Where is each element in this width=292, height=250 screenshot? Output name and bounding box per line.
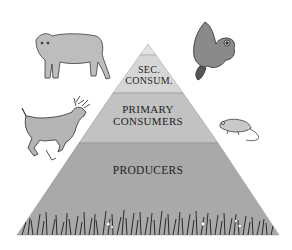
mouse-icon bbox=[220, 119, 259, 140]
label-producers-line1: PRODUCERS bbox=[90, 164, 206, 176]
label-secondary-line2: CONSUM. bbox=[118, 76, 180, 87]
label-primary-consumers: PRIMARY CONSUMERS bbox=[90, 104, 206, 127]
label-secondary-line1: SEC. bbox=[118, 65, 180, 76]
owl-icon bbox=[194, 22, 235, 80]
food-pyramid-diagram: SEC. CONSUM. PRIMARY CONSUMERS PRODUCERS bbox=[0, 0, 292, 250]
pyramid-apex bbox=[140, 44, 156, 55]
label-secondary-consumers: SEC. CONSUM. bbox=[118, 65, 180, 86]
label-producers: PRODUCERS bbox=[90, 164, 206, 176]
mountain-lion-icon bbox=[36, 34, 110, 79]
label-primary-line1: PRIMARY bbox=[90, 104, 206, 116]
label-primary-line2: CONSUMERS bbox=[90, 116, 206, 128]
